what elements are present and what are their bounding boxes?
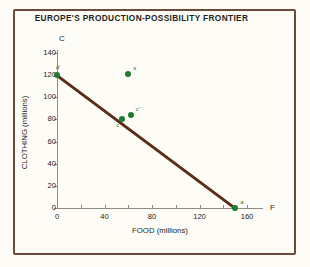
- data-point-label: c: [116, 122, 119, 128]
- data-point-s: [125, 71, 131, 77]
- y-axis-cap-label: C: [59, 34, 65, 43]
- x-tick: [200, 205, 201, 209]
- x-tick: [152, 205, 153, 209]
- x-tick-label: 80: [137, 213, 167, 221]
- x-tick: [247, 205, 248, 209]
- x-axis-cap-label: F: [270, 203, 275, 212]
- y-tick-label: 40: [48, 160, 56, 168]
- y-tick-label: 140: [43, 49, 56, 57]
- x-tick: [176, 205, 177, 209]
- data-point-a: [232, 205, 238, 211]
- x-tick-label: 0: [42, 213, 72, 221]
- y-tick-label: 0: [52, 204, 56, 212]
- chart-figure: EUROPE'S PRODUCTION-POSSIBILITY FRONTIER…: [0, 0, 310, 267]
- x-tick-label: 120: [185, 213, 215, 221]
- x-tick: [128, 205, 129, 209]
- plot-area: C F CLOTHING (millions) FOOD (millions) …: [0, 0, 310, 267]
- x-tick: [57, 205, 58, 209]
- y-tick-label: 20: [48, 182, 56, 190]
- y-tick-label: 80: [48, 115, 56, 123]
- x-tick: [81, 205, 82, 209]
- x-tick: [223, 205, 224, 209]
- data-point-label: d: [56, 64, 59, 70]
- data-point-label: c': [136, 106, 140, 112]
- data-point-label: s: [133, 65, 136, 71]
- x-tick-label: 40: [90, 213, 120, 221]
- y-axis-title: CLOTHING (millions): [20, 73, 29, 193]
- x-tick-label: 160: [232, 213, 262, 221]
- y-tick-label: 60: [48, 138, 56, 146]
- data-point-c-prime: [128, 112, 134, 118]
- ppf-line: [56, 74, 236, 209]
- y-tick-label: 100: [43, 93, 56, 101]
- data-point-label: a: [240, 199, 243, 205]
- data-point-c: [119, 116, 125, 122]
- x-tick: [105, 205, 106, 209]
- x-axis-title: FOOD (millions): [57, 226, 263, 235]
